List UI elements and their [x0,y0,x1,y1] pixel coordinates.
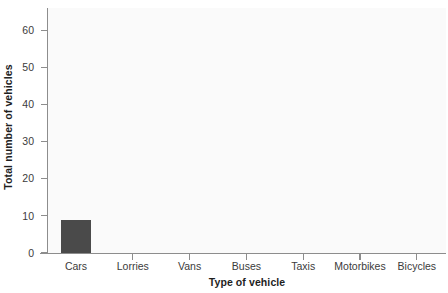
bar-cars [61,220,91,253]
x-axis-tick-label: Lorries [117,261,149,272]
y-axis-title-text: Total number of vehicles [2,64,14,189]
bar-chart-figure: 0102030405060 CarsLorriesVansBusesTaxisM… [0,0,448,293]
x-axis-tick-label: Vans [178,261,201,272]
y-axis-title: Total number of vehicles [0,0,16,253]
x-axis-title: Type of vehicle [48,277,446,288]
y-axis-tick [41,104,48,105]
x-axis-line [40,253,446,254]
x-axis-tick-label: Taxis [291,261,315,272]
y-axis-tick [41,30,48,31]
y-axis-tick [41,141,48,142]
x-axis-tick-label: Bicycles [398,261,437,272]
y-axis-tick [41,215,48,216]
x-axis-tick-label: Cars [65,261,87,272]
x-axis-tick-label: Motorbikes [334,261,385,272]
y-axis-tick [41,252,48,253]
x-axis-tick-label: Buses [232,261,261,272]
plot-area-background [48,8,446,253]
y-axis-tick [41,67,48,68]
y-axis-tick [41,178,48,179]
y-axis-line [47,8,48,254]
